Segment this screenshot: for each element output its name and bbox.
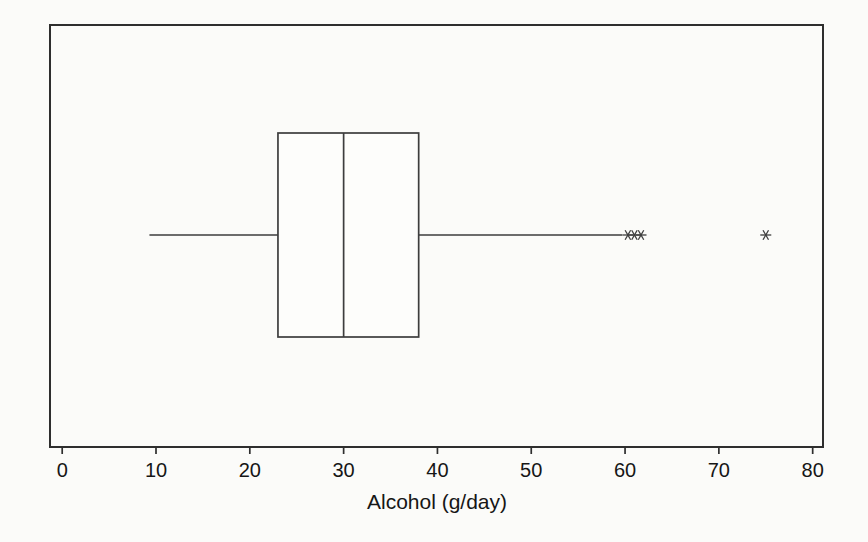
x-axis-tick-label: 10 [145,459,167,481]
x-axis-tick-label: 20 [239,459,261,481]
page-root: 01020304050607080 Alcohol (g/day) [0,0,868,542]
x-axis-tick-label: 30 [333,459,355,481]
iqr-box [278,133,419,337]
x-axis-title: Alcohol (g/day) [367,490,507,513]
plot-area [50,25,823,447]
x-axis-tick-label: 80 [802,459,824,481]
outlier-marker [636,230,647,240]
plot-frame [50,25,823,447]
x-axis-tick-label: 70 [708,459,730,481]
boxplot-chart: 01020304050607080 Alcohol (g/day) [0,0,868,542]
x-axis-tick-label: 0 [57,459,68,481]
outlier-marker [760,230,771,240]
x-axis-tick-label: 40 [426,459,448,481]
x-axis: 01020304050607080 [57,447,824,481]
x-axis-tick-label: 50 [520,459,542,481]
x-axis-tick-label: 60 [614,459,636,481]
